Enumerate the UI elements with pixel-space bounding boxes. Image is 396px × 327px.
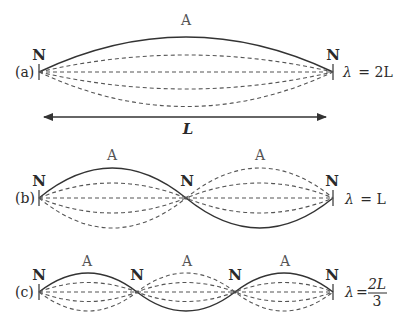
wavelength-equation: λ = L	[344, 191, 386, 207]
wave-dashed	[39, 72, 333, 89]
node-label: N	[32, 46, 46, 64]
node-label: N	[32, 266, 46, 284]
antinode-label: A	[181, 253, 193, 269]
antinode-label: A	[81, 253, 93, 269]
fraction-denominator: 3	[373, 293, 382, 309]
lambda-symbol: λ	[344, 284, 354, 300]
wavelength-equation: λ = 2L	[342, 64, 393, 80]
node-label: N	[325, 172, 339, 190]
node-label: N	[325, 266, 339, 284]
node-label: N	[180, 172, 194, 190]
case-label: (c)	[15, 284, 34, 300]
antinode-label: A	[254, 147, 266, 163]
standing-wave-diagram: A N N (a) λ = 2L L A A N N N (b)	[0, 0, 396, 327]
equals-sign: =	[356, 284, 368, 300]
fraction-numerator: 2L	[367, 276, 386, 292]
node-label: N	[130, 266, 144, 284]
node-label: N	[326, 46, 340, 64]
panel-a: A N N (a) λ = 2L L	[15, 12, 393, 138]
wavelength-equation: λ = 2L 3	[344, 276, 387, 309]
length-label: L	[182, 120, 194, 138]
antinode-label: A	[279, 253, 291, 269]
case-label: (a)	[15, 64, 34, 80]
panel-b: A A N N N (b) λ = L	[15, 147, 386, 228]
case-label: (b)	[15, 190, 35, 206]
antinode-label: A	[180, 12, 192, 28]
node-label: N	[32, 172, 46, 190]
wave-dashed	[39, 55, 333, 72]
antinode-label: A	[106, 147, 118, 163]
panel-c: A A A N N N N (c) λ = 2L 3	[15, 253, 387, 311]
node-label: N	[228, 266, 242, 284]
